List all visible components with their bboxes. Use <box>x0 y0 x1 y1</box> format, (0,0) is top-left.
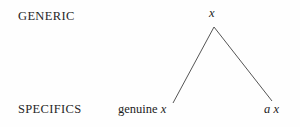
node-right-variable: x <box>273 102 279 116</box>
branch-left <box>173 27 214 103</box>
diagram-canvas: GENERIC SPECIFICS x genuine x a x <box>0 0 300 127</box>
branch-right <box>214 27 272 101</box>
node-right-leaf: a x <box>264 102 279 117</box>
node-right-modifier: a <box>264 102 270 116</box>
node-left-word: genuine <box>118 102 158 116</box>
node-root: x <box>209 6 215 21</box>
node-left-variable: x <box>161 102 167 116</box>
node-root-variable: x <box>209 6 215 20</box>
node-left-leaf: genuine x <box>118 102 166 117</box>
